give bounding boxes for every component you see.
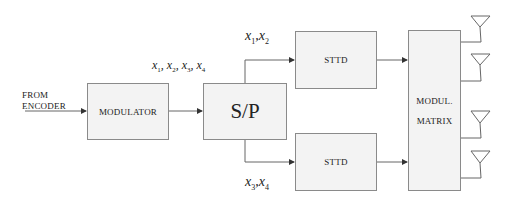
input-label-line1: FROM [22,90,66,101]
input-label-line2: ENCODER [22,101,66,112]
sttd-top-label: STTD [324,55,347,65]
input-label: FROM ENCODER [22,90,66,112]
symbols-top-label: x1,x2 [245,28,269,46]
sttd-bottom-block: STTD [295,133,377,191]
sp-label: S/P [230,99,259,124]
antenna-icon [471,16,491,42]
sttd-bottom-label: STTD [324,157,347,167]
modulation-matrix-block: MODUL. MATRIX [408,30,461,191]
modulator-label: MODULATOR [99,107,157,117]
modulator-block: MODULATOR [87,83,169,140]
block-diagram: FROM ENCODER MODULATOR x1, x2, x3, x4 S/… [0,0,519,205]
symbols-all-label: x1, x2, x3, x4 [152,58,205,74]
antenna-icon [471,111,491,138]
sttd-top-block: STTD [295,31,377,89]
antenna-icon [471,151,491,178]
symbols-bottom-label: x3,x4 [245,174,269,192]
sp-block: S/P [203,83,287,140]
antenna-icon [471,54,491,81]
matrix-label-line2: MATRIX [417,111,453,131]
matrix-label-line1: MODUL. [416,91,452,111]
